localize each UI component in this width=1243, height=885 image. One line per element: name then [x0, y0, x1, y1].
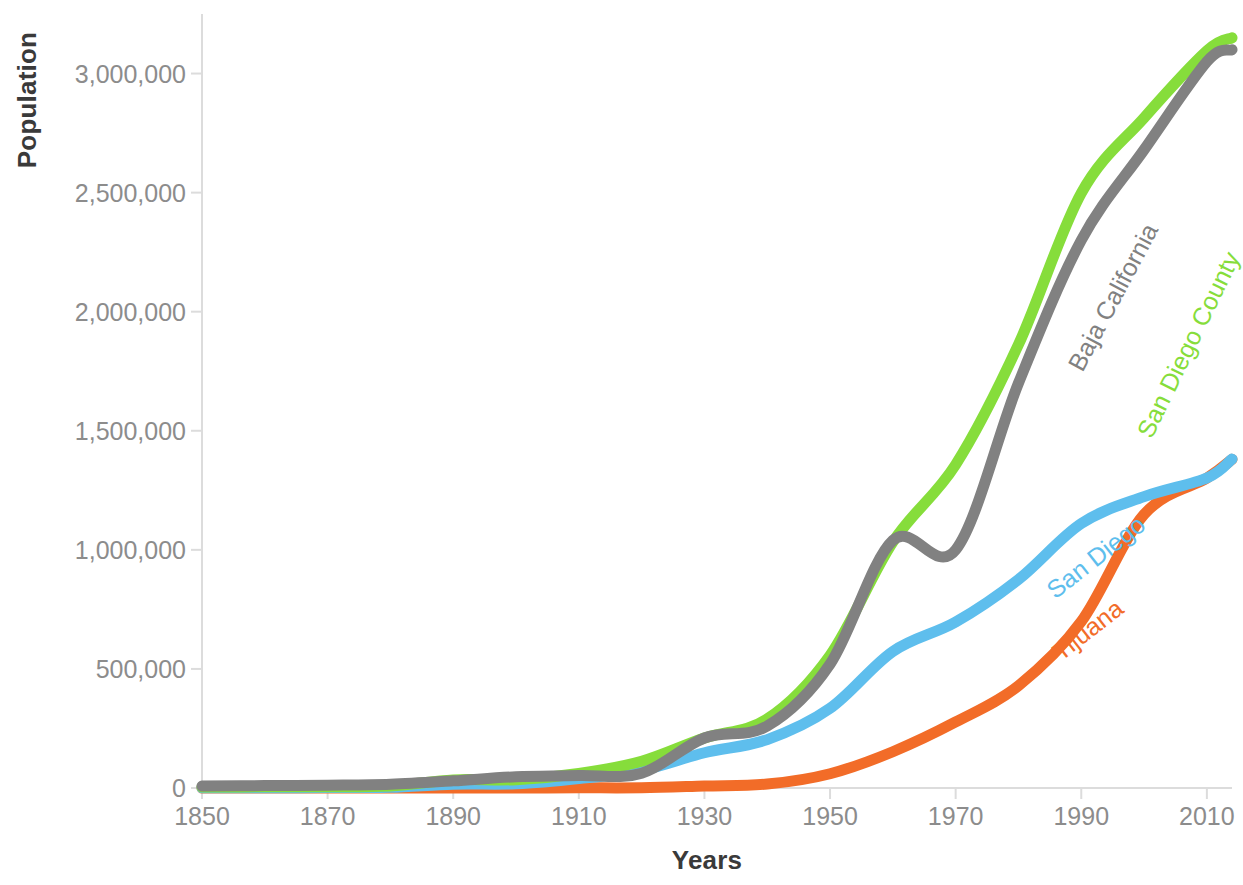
- series-line-baja-california: [202, 50, 1232, 786]
- series-line-san-diego-county: [202, 38, 1232, 787]
- plot-area: [0, 0, 1243, 885]
- population-line-chart: Population 0500,0001,000,0001,500,0002,0…: [0, 0, 1243, 885]
